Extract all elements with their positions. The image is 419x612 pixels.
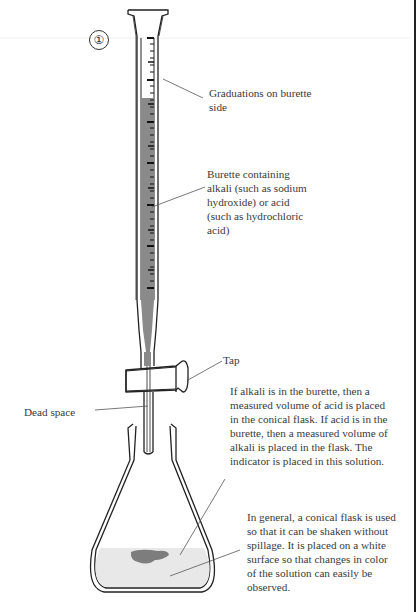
- figure-number-badge: ①: [89, 30, 109, 50]
- burette-liquid: [141, 98, 154, 352]
- label-graduations: Graduations on burette side: [209, 86, 319, 114]
- tap: [126, 352, 188, 392]
- label-dead-space: Dead space: [24, 405, 75, 419]
- label-tap: Tap: [223, 353, 240, 367]
- label-burette-contents: Burette containing alkali (such as sodiu…: [207, 167, 307, 237]
- label-flask-solution: If alkali is in the burette, then a meas…: [230, 384, 390, 468]
- titration-diagram: ① Graduations on burette side Burette co…: [0, 0, 419, 612]
- label-conical-flask: In general, a conical flask is used so t…: [247, 510, 397, 594]
- page-border: [414, 0, 416, 612]
